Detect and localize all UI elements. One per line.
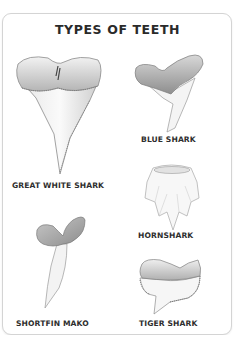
tooth-label-great-white: GREAT WHITE SHARK [12,181,104,190]
page-title: TYPES OF TEETH [0,22,235,37]
tiger-shark-tooth-icon [136,256,204,316]
tooth-label-shortfin-mako: SHORTFIN MAKO [16,319,89,328]
background-strip [0,335,235,347]
shortfin-mako-tooth-icon [33,214,89,310]
tooth-label-tiger-shark: TIGER SHARK [139,319,197,328]
blue-shark-tooth-icon [133,54,209,134]
hornshark-tooth-icon [141,164,203,232]
tooth-label-blue-shark: BLUE SHARK [141,135,196,144]
tooth-label-hornshark: HORNSHARK [138,231,193,240]
great-white-tooth-icon [14,54,104,176]
